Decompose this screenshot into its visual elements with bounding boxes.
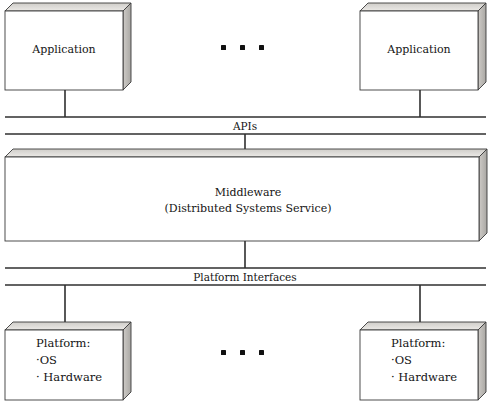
apis-bar: APIs — [5, 117, 486, 134]
platform-box-right-top-face — [360, 322, 486, 330]
platform-box-right-side-face — [478, 322, 486, 400]
platform-box-right-item-hardware: · Hardware — [391, 370, 457, 384]
application-box-right-top-face — [360, 3, 486, 11]
platform-ellipsis — [221, 350, 264, 355]
application-box-left-top-face — [5, 3, 131, 11]
platform-interfaces-bar-label: Platform Interfaces — [193, 271, 296, 283]
platform-box-left-top-face — [5, 322, 131, 330]
middleware-box-side-face — [479, 149, 487, 241]
middleware-box: Middleware (Distributed Systems Service) — [5, 149, 487, 241]
application-box-right-side-face — [478, 3, 486, 90]
platform-ellipsis-dot-3 — [259, 350, 264, 355]
middleware-architecture-diagram: Application Application APIs — [0, 0, 495, 406]
platform-box-right-title: Platform: — [391, 336, 445, 350]
application-box-left-label: Application — [31, 43, 95, 56]
platform-box-left-side-face — [123, 322, 131, 400]
platform-ellipsis-dot-1 — [221, 350, 226, 355]
platform-box-right: Platform: ·OS · Hardware — [360, 322, 486, 400]
middleware-box-front-face — [5, 157, 479, 241]
apis-bar-label: APIs — [232, 120, 257, 132]
application-ellipsis-dot-2 — [240, 45, 245, 50]
application-ellipsis — [221, 45, 264, 50]
platform-interfaces-bar: Platform Interfaces — [5, 268, 486, 285]
platform-box-right-item-os: ·OS — [391, 353, 412, 367]
application-box-left-side-face — [123, 3, 131, 90]
diagram-canvas: Application Application APIs — [0, 0, 495, 406]
middleware-box-top-face — [5, 149, 487, 157]
application-ellipsis-dot-3 — [259, 45, 264, 50]
application-box-right-label: Application — [386, 43, 450, 56]
application-box-left: Application — [5, 3, 131, 90]
application-ellipsis-dot-1 — [221, 45, 226, 50]
middleware-label-primary: Middleware — [215, 186, 282, 199]
platform-ellipsis-dot-2 — [240, 350, 245, 355]
platform-box-left-item-hardware: · Hardware — [36, 370, 102, 384]
platform-box-left: Platform: ·OS · Hardware — [5, 322, 131, 400]
application-box-right: Application — [360, 3, 486, 90]
platform-box-left-title: Platform: — [36, 336, 90, 350]
middleware-label-secondary: (Distributed Systems Service) — [165, 202, 332, 215]
platform-box-left-item-os: ·OS — [36, 353, 57, 367]
